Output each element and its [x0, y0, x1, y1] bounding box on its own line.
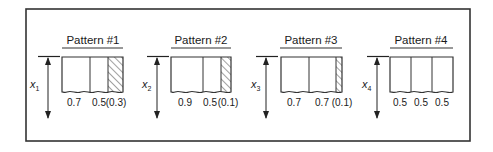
piece-width: 0.5: [203, 97, 217, 108]
cutting-patterns-diagram: Pattern #1 x1 0.7 0.5 (0.3) Pattern #2 x…: [0, 0, 493, 152]
pattern-3: Pattern #3 x3 0.7 0.7 (0.1): [250, 34, 352, 119]
piece-width: 0.5: [435, 97, 449, 108]
waste-width: (0.1): [332, 97, 353, 108]
pattern-title: Pattern #4: [394, 34, 448, 46]
piece-width: 0.7: [287, 97, 301, 108]
hatched-waste: [221, 57, 231, 92]
repeat-variable: x2: [141, 78, 152, 92]
pattern-title: Pattern #1: [66, 34, 119, 46]
waste-width: (0.1): [218, 97, 239, 108]
pattern-title: Pattern #3: [284, 34, 337, 46]
hatched-waste: [108, 57, 123, 93]
dimension-arrow: [38, 57, 60, 120]
roll-box: [390, 57, 453, 93]
piece-width: 0.5: [414, 97, 428, 108]
pattern-title: Pattern #2: [174, 34, 227, 46]
piece-width: 0.5: [393, 97, 407, 108]
hatched-waste: [336, 57, 342, 92]
piece-width: 0.7: [315, 97, 329, 108]
waste-width: (0.3): [106, 97, 127, 108]
pattern-4: Pattern #4 x4 0.5 0.5 0.5: [361, 34, 453, 119]
repeat-variable: x1: [29, 78, 40, 92]
pattern-1: Pattern #1 x1 0.7 0.5 (0.3): [29, 34, 126, 119]
pattern-2: Pattern #2 x2 0.9 0.5 (0.1): [141, 34, 238, 119]
piece-width: 0.7: [67, 97, 81, 108]
piece-width: 0.5: [92, 97, 106, 108]
repeat-variable: x4: [361, 78, 372, 92]
piece-width: 0.9: [178, 97, 192, 108]
outer-frame: [26, 9, 470, 141]
repeat-variable: x3: [250, 78, 261, 92]
roll-box: [281, 57, 342, 93]
